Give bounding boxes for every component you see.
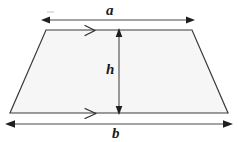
arrowhead-a-right bbox=[186, 17, 195, 24]
trapezoid-diagram-svg bbox=[0, 0, 238, 142]
label-side-a: a bbox=[106, 3, 114, 18]
trapezoid-figure: a h b bbox=[0, 0, 238, 142]
arrowhead-a-left bbox=[41, 17, 50, 24]
label-height-h: h bbox=[106, 62, 114, 77]
arrowhead-b-left bbox=[5, 120, 15, 128]
label-side-b: b bbox=[112, 126, 120, 141]
dimension-line-a bbox=[41, 12, 195, 23]
arrowhead-b-right bbox=[223, 120, 233, 128]
